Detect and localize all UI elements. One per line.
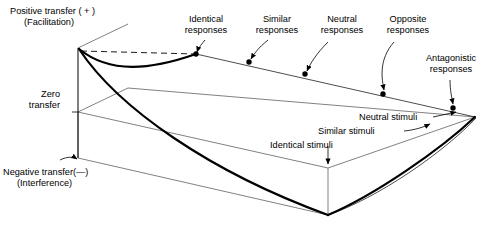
label-similar-stimuli: Similar stimuli — [318, 126, 375, 137]
label-antagonistic-responses: Antagonistic responses — [410, 53, 492, 75]
point-identical-responses — [193, 51, 198, 56]
label-negative-transfer: Negative transfer(—) (Interference) — [3, 167, 88, 189]
zero-transfer-plane — [78, 88, 475, 168]
label-identical-stimuli: Identical stimuli — [270, 140, 333, 151]
leader-similar-stimuli — [404, 124, 430, 131]
point-neutral-responses — [302, 71, 307, 76]
leader-antagonistic-responses — [450, 80, 453, 104]
point-opposite-responses — [380, 91, 385, 96]
point-similar-responses — [246, 59, 251, 64]
bottom-plane-front-edge — [78, 158, 328, 215]
front-transfer-curve — [79, 49, 328, 215]
leader-identical-responses — [197, 40, 205, 52]
leader-neutral-stimuli — [433, 112, 456, 117]
leader-similar-responses — [251, 40, 268, 59]
leader-neutral-responses — [307, 42, 328, 71]
label-positive-transfer: Positive transfer ( + ) (Facilitation) — [10, 6, 95, 28]
leader-negative-transfer — [60, 157, 77, 160]
point-antagonistic-responses — [450, 105, 455, 110]
label-opposite-responses: Opposite responses — [369, 14, 447, 36]
label-neutral-stimuli: Neutral stimuli — [359, 112, 417, 123]
transfer-surface-figure: Positive transfer ( + ) (Facilitation) Z… — [0, 0, 493, 229]
label-zero-transfer: Zero transfer — [0, 89, 60, 111]
leader-opposite-responses — [382, 42, 394, 90]
label-identical-responses: Identical responses — [163, 14, 249, 36]
